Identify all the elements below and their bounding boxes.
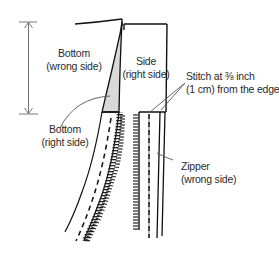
- bottom-panel: [75, 19, 122, 26]
- label-zipper-wrong-side: Zipper (wrong side): [181, 160, 236, 185]
- label-side-right-side: Side (right side): [122, 55, 170, 80]
- zipper-sewing-diagram: Bottom (wrong side) Bottom (right side) …: [0, 0, 279, 258]
- label-bottom-wrong-side: Bottom (wrong side): [46, 47, 102, 72]
- bottom-right-side-shade: [102, 22, 122, 112]
- double-arrow-icon: [19, 22, 38, 114]
- side-zipper-strip: [139, 112, 166, 238]
- label-bottom-right-side: Bottom (right side): [38, 123, 92, 148]
- zipper-teeth-right: [133, 115, 138, 229]
- label-stitch-instruction: Stitch at ⅜ inch (1 cm) from the edge: [186, 70, 279, 95]
